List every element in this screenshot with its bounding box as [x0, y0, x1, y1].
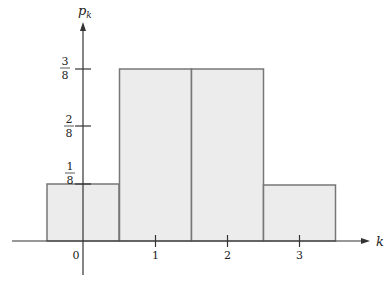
- y-tick-label-2-8: 2 8: [64, 113, 74, 140]
- bar-k3: [264, 185, 336, 241]
- x-tick-label-2: 2: [224, 249, 231, 262]
- svg-text:8: 8: [67, 174, 74, 187]
- svg-text:8: 8: [66, 127, 73, 140]
- x-tick-label-3: 3: [296, 249, 303, 262]
- x-tick-label-0: 0: [73, 249, 80, 262]
- x-axis-arrow-icon: [361, 238, 370, 244]
- svg-text:3: 3: [62, 55, 69, 68]
- svg-text:1: 1: [67, 160, 74, 173]
- svg-text:8: 8: [62, 69, 69, 82]
- x-axis-label: k: [376, 234, 384, 249]
- bars: [47, 69, 336, 241]
- x-tick-label-1: 1: [152, 249, 159, 262]
- pmf-chart: 3 8 2 8 1 8 0 1 2 3 pk k: [0, 0, 391, 292]
- bar-k2: [192, 69, 264, 241]
- y-axis-arrow-icon: [80, 22, 86, 31]
- svg-text:2: 2: [66, 113, 73, 126]
- y-tick-label-3-8: 3 8: [60, 55, 70, 82]
- y-axis-label: pk: [78, 3, 92, 20]
- y-tick-label-1-8: 1 8: [65, 160, 75, 187]
- bar-k1: [120, 69, 192, 241]
